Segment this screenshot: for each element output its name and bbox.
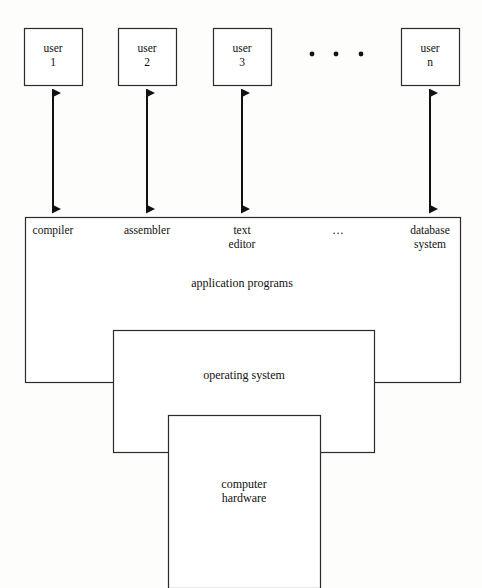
diagram-canvas [0,0,482,588]
users-ellipsis-dot-2-icon [334,52,339,57]
user-n-box [402,29,460,86]
user-3-box [214,29,272,86]
users-ellipsis-dot-3-icon [359,52,364,57]
users-ellipsis-dot-1-icon [310,52,315,57]
os-architecture-diagram: user 1 user 2 user 3 user n compiler ass… [0,0,482,588]
user-1-box [25,29,83,86]
user-2-box [119,29,177,86]
computer-hardware-box [169,416,321,588]
